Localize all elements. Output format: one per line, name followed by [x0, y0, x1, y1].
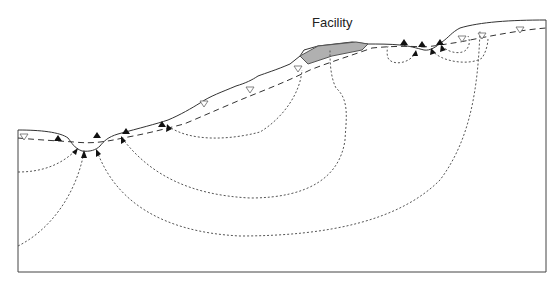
flow-line-5	[168, 70, 302, 138]
facility-label: Facility	[312, 15, 352, 30]
water-table-marker-icon	[478, 33, 486, 39]
flow-line-1	[18, 150, 76, 172]
ground-surface-line	[18, 20, 546, 151]
flow-arrows	[72, 45, 446, 158]
flow-arrow-icon	[72, 148, 78, 155]
flow-lines	[18, 30, 488, 246]
flow-arrow-icon	[166, 124, 172, 132]
flow-line-6	[387, 46, 416, 63]
discharge-triangle-icon	[400, 39, 408, 45]
water-table-line	[18, 28, 546, 143]
discharge-triangle-icon	[93, 132, 101, 138]
water-table-marker-icon	[516, 27, 524, 33]
section-boundary	[18, 20, 546, 272]
flow-arrow-icon	[412, 50, 418, 56]
discharge-triangle-icon	[418, 41, 426, 47]
flow-arrow-icon	[440, 45, 446, 52]
water-table-marker-icon	[294, 66, 302, 72]
flow-line-3	[97, 30, 480, 236]
cross-section-svg	[0, 0, 560, 283]
water-table-marker-icon	[20, 134, 28, 140]
water-table-marker-icon	[200, 101, 208, 107]
discharge-triangle-icon	[158, 121, 166, 127]
water-table-marker-icon	[246, 87, 254, 93]
discharge-triangle-icon	[54, 135, 62, 141]
